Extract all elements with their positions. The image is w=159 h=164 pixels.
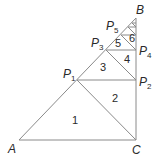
region-1: 1 [72,114,78,126]
region-3: 3 [100,61,106,73]
triangle-diagram: A C B P1 P2 P3 P4 P5 1 2 3 4 5 6 [0,0,159,164]
label-p4: P4 [139,44,152,60]
label-p1: P1 [63,67,76,83]
label-a: A [7,142,16,156]
region-6: 6 [129,32,135,44]
label-p5: P5 [106,19,119,35]
region-4: 4 [124,53,130,65]
label-b: B [136,3,144,17]
label-p2: P2 [139,75,152,91]
segment-c-p1 [77,80,136,140]
label-c: C [132,143,141,157]
segment-8 [132,23,136,27]
region-5: 5 [115,37,121,49]
region-2: 2 [112,92,118,104]
segment-p2-p3 [106,50,136,80]
label-p3: P3 [91,36,104,52]
